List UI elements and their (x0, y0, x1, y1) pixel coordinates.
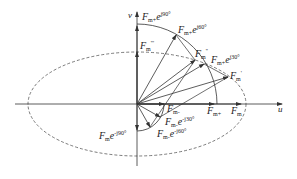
label-fm-prime: Fm' (230, 70, 242, 82)
vector-fm-double-prime (137, 60, 195, 104)
vector-fm-plus-e30 (137, 64, 204, 104)
phasor-diagram (0, 0, 297, 179)
sum-line-60b (176, 35, 195, 60)
vector-fm-prime (137, 77, 228, 104)
label-fm-plus-e30: Fm+ej30° (211, 54, 240, 66)
label-fm-double-prime: Fm'' (195, 48, 208, 60)
label-fm-minus-e-60: Fm-e-j60° (157, 128, 186, 140)
u-axis-label: u (278, 104, 283, 114)
v-axis-label: v (128, 10, 132, 20)
fm-minus-arc (137, 104, 164, 131)
label-fm-minus: Fm- (167, 104, 180, 115)
label-fm-plus: Fm+ (207, 106, 221, 117)
label-fm-minus-e-30: Fm-e-j30° (165, 116, 194, 128)
label-fm: Fm (231, 106, 242, 117)
label-fm-plus-e60: Fm+ej60° (178, 24, 207, 36)
label-fm-plus-e90: Fm+ej90° (142, 11, 171, 23)
label-fm-minus-e-90: Fme-j90° (99, 130, 126, 142)
label-fm-triple-prime: Fm''' (140, 40, 154, 52)
